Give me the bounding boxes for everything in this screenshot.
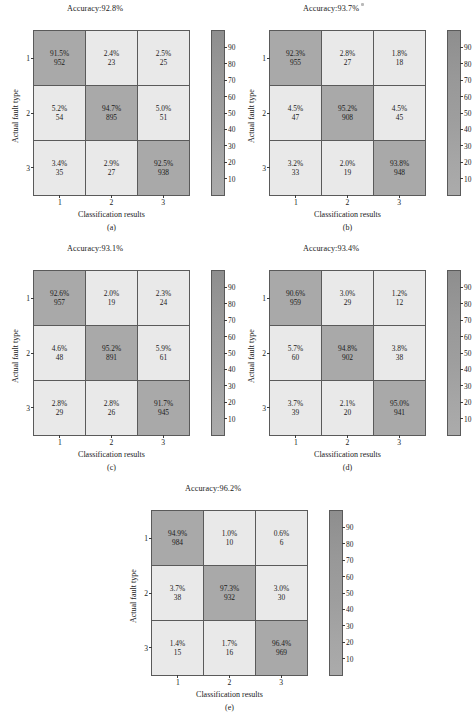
x-tickmark [59, 435, 60, 438]
matrix-cell-a-r3c3: 92.5%938 [138, 141, 189, 195]
colorbar-tick-e-20: 20 [342, 638, 353, 647]
colorbar-tick-b-50: 50 [460, 109, 471, 118]
x-tick-b-3: 3 [397, 198, 401, 207]
matrix-cell-e-r3c1: 1.4%15 [152, 621, 203, 675]
cell-percent: 93.8% [390, 159, 409, 168]
cell-percent: 3.7% [170, 584, 185, 593]
accuracy-title-b: Accuracy:93.7% [236, 4, 426, 13]
y-tickmark [149, 538, 152, 539]
confusion-matrix-grid-b: 92.3%9552.8%271.8%184.5%4795.2%9084.5%45… [269, 30, 426, 196]
cell-percent: 5.7% [288, 344, 303, 353]
x-tickmark [229, 675, 230, 678]
x-tickmark [177, 675, 178, 678]
y-tick-c-1: 1 [26, 294, 30, 303]
colorbar-tick-e-70: 70 [342, 556, 353, 565]
y-tick-c-2: 2 [26, 349, 30, 358]
x-tickmark [347, 435, 348, 438]
cell-count: 908 [342, 113, 353, 122]
matrix-cell-b-r1c2: 2.8%27 [322, 31, 373, 85]
colorbar-tick-c-30: 30 [224, 381, 235, 390]
matrix-cell-b-r2c1: 4.5%47 [270, 86, 321, 140]
cell-count: 25 [160, 58, 167, 67]
y-tick-e-1: 1 [144, 534, 148, 543]
cell-count: 941 [394, 408, 405, 417]
matrix-cell-a-r1c1: 91.5%952 [34, 31, 85, 85]
y-tickmark [31, 167, 34, 168]
cell-count: 30 [278, 593, 285, 602]
y-tickmark [31, 58, 34, 59]
colorbar-tick-d-20: 20 [460, 398, 471, 407]
cell-percent: 3.0% [340, 289, 355, 298]
colorbar-tick-c-40: 40 [224, 365, 235, 374]
x-tick-c-2: 2 [110, 438, 114, 447]
confusion-matrix-grid-a: 91.5%9522.4%232.5%255.2%5494.7%8955.0%51… [33, 30, 190, 196]
x-tickmark [281, 675, 282, 678]
x-tick-a-1: 1 [58, 198, 62, 207]
x-tick-b-1: 1 [294, 198, 298, 207]
panel-letter-c: (c) [33, 463, 190, 472]
cell-count: 952 [54, 58, 65, 67]
colorbar-tick-a-70: 70 [224, 76, 235, 85]
y-tick-b-2: 2 [262, 109, 266, 118]
cell-percent: 2.0% [340, 159, 355, 168]
matrix-cell-c-r3c1: 2.8%29 [34, 381, 85, 435]
matrix-cell-b-r1c3: 1.8%18 [374, 31, 425, 85]
matrix-cell-d-r2c2: 94.8%902 [322, 326, 373, 380]
y-tick-d-2: 2 [262, 349, 266, 358]
matrix-cell-a-r2c1: 5.2%54 [34, 86, 85, 140]
cell-percent: 94.8% [338, 344, 357, 353]
y-tick-b-3: 3 [262, 163, 266, 172]
accuracy-title-d: Accuracy:93.4% [236, 244, 426, 253]
colorbar-tick-a-90: 90 [224, 43, 235, 52]
matrix-cell-d-r1c2: 3.0%29 [322, 271, 373, 325]
colorbar-tick-b-20: 20 [460, 158, 471, 167]
panel-letter-e: (e) [151, 703, 308, 712]
cell-percent: 1.7% [222, 639, 237, 648]
x-tick-d-2: 2 [346, 438, 350, 447]
colorbar-tick-b-80: 80 [460, 59, 471, 68]
colorbar-tick-a-10: 10 [224, 174, 235, 183]
colorbar-tick-a-30: 30 [224, 141, 235, 150]
matrix-cell-d-r3c3: 95.0%941 [374, 381, 425, 435]
cell-percent: 4.5% [392, 104, 407, 113]
colorbar-tick-e-50: 50 [342, 589, 353, 598]
colorbar-tick-c-60: 60 [224, 332, 235, 341]
cell-count: 26 [108, 408, 115, 417]
panel-letter-a: (a) [33, 223, 190, 232]
x-tick-c-3: 3 [161, 438, 165, 447]
x-tickmark [295, 435, 296, 438]
matrix-cell-b-r3c1: 3.2%33 [270, 141, 321, 195]
colorbar-c: 908070605040302010 [211, 270, 225, 436]
cell-count: 20 [344, 408, 351, 417]
matrix-cell-e-r3c3: 96.4%969 [256, 621, 307, 675]
y-tickmark [31, 298, 34, 299]
matrix-cell-c-r2c1: 4.6%48 [34, 326, 85, 380]
matrix-cell-e-r3c2: 1.7%16 [204, 621, 255, 675]
cell-percent: 2.8% [340, 49, 355, 58]
y-tickmark [31, 113, 34, 114]
cell-count: 969 [276, 648, 287, 657]
cell-percent: 5.0% [156, 104, 171, 113]
x-axis-label-a: Classification results [33, 210, 190, 219]
y-axis-label-e: Actual fault type [129, 569, 138, 623]
cell-count: 891 [106, 353, 117, 362]
matrix-cell-d-r3c2: 2.1%20 [322, 381, 373, 435]
y-tickmark [267, 113, 270, 114]
cell-percent: 3.2% [288, 159, 303, 168]
cell-count: 984 [172, 538, 183, 547]
matrix-cell-a-r3c2: 2.9%27 [86, 141, 137, 195]
cell-count: 10 [226, 538, 233, 547]
y-tick-e-3: 3 [144, 643, 148, 652]
x-tick-d-3: 3 [397, 438, 401, 447]
cell-percent: 94.7% [102, 104, 121, 113]
matrix-cell-d-r3c1: 3.7%39 [270, 381, 321, 435]
x-tick-e-3: 3 [279, 678, 283, 687]
colorbar-tick-a-80: 80 [224, 59, 235, 68]
colorbar-tick-e-90: 90 [342, 523, 353, 532]
cell-count: 61 [160, 353, 167, 362]
colorbar-tick-d-70: 70 [460, 316, 471, 325]
x-tickmark [347, 195, 348, 198]
y-tickmark [267, 407, 270, 408]
confusion-matrix-panel-d: Accuracy:93.4%90.6%9593.0%291.2%125.7%60… [236, 244, 476, 478]
x-axis-label-d: Classification results [269, 450, 426, 459]
